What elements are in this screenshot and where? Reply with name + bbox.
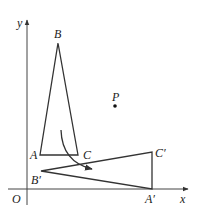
origin-label: O bbox=[12, 192, 21, 206]
point-label-c: C bbox=[83, 148, 92, 162]
diagram-canvas: y x O B A C B′ C′ A′ P bbox=[0, 0, 199, 213]
point-label-a: A bbox=[29, 148, 38, 162]
point-label-b-prime: B′ bbox=[31, 173, 41, 187]
point-label-a-prime: A′ bbox=[144, 192, 155, 206]
point-label-b: B bbox=[54, 27, 62, 41]
point-p bbox=[113, 104, 117, 108]
point-label-c-prime: C′ bbox=[155, 146, 166, 160]
y-axis-label: y bbox=[16, 16, 23, 30]
triangle-a-prime-b-prime-c-prime bbox=[41, 152, 152, 189]
triangle-abc bbox=[40, 43, 78, 155]
point-label-p: P bbox=[111, 90, 120, 104]
x-axis-label: x bbox=[179, 192, 186, 206]
